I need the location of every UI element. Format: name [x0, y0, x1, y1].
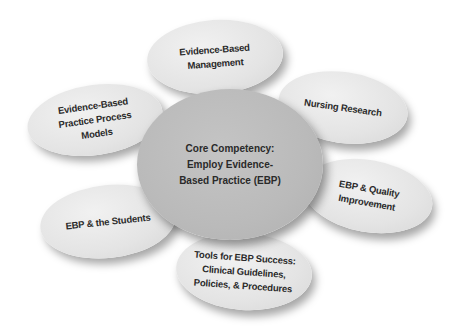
node-label: EBP & Quality Improvement	[328, 176, 409, 217]
center-core-competency: Core Competency: Employ Evidence- Based …	[137, 89, 323, 240]
node-label: Nursing Research	[295, 94, 390, 121]
node-label: Tools for EBP Success: Clinical Guidelin…	[184, 246, 305, 296]
center-label: Core Competency: Employ Evidence- Based …	[171, 141, 289, 189]
node-label: Evidence-Based Practice Process Models	[48, 93, 142, 147]
node-label: EBP & the Students	[57, 209, 159, 234]
node-label: Evidence-Based Management	[171, 40, 259, 74]
ebp-diagram: Evidence-Based Management Nursing Resear…	[0, 0, 459, 328]
node-evidence-based-management: Evidence-Based Management	[145, 15, 286, 98]
node-tools-for-ebp-success: Tools for EBP Success: Clinical Guidelin…	[173, 228, 314, 314]
